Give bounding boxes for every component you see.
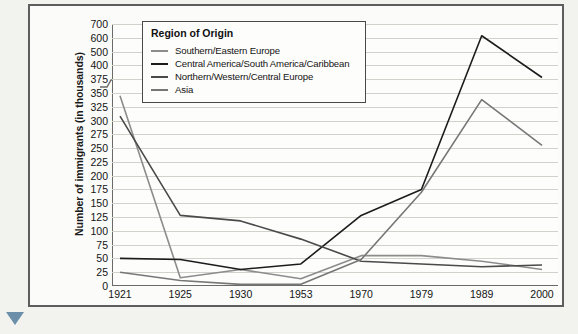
x-tick-1925: 1925 (169, 288, 192, 300)
y-tick-200: 200 (90, 170, 108, 182)
legend-swatch-icon (151, 50, 168, 52)
legend-title: Region of Origin (151, 27, 357, 39)
x-tick-1970: 1970 (349, 288, 372, 300)
x-tick-1989: 1989 (470, 288, 493, 300)
legend-items: Southern/Eastern EuropeCentral America/S… (151, 44, 357, 96)
legend-item: Southern/Eastern Europe (151, 44, 357, 57)
line-southern-eastern-europe (120, 96, 542, 279)
x-tick-1979: 1979 (410, 288, 433, 300)
y-tick-225: 225 (90, 156, 108, 168)
corner-arrow-marker (6, 312, 24, 325)
legend-label: Southern/Eastern Europe (175, 45, 280, 56)
y-tick-300: 300 (90, 115, 108, 127)
y-tick-150: 150 (90, 197, 108, 209)
x-tick-1921: 1921 (108, 288, 131, 300)
legend-label: Asia (175, 84, 193, 95)
legend-item: Asia (151, 83, 357, 96)
y-tick-175: 175 (90, 183, 108, 195)
y-tick-0: 0 (102, 280, 108, 292)
legend-label: Central America/South America/Caribbean (175, 58, 349, 69)
y-tick-600: 600 (90, 32, 108, 44)
legend-swatch-icon (151, 89, 168, 91)
line-northern-western-central-europe (120, 116, 542, 267)
y-tick-250: 250 (90, 142, 108, 154)
y-tick-25: 25 (96, 266, 108, 278)
y-axis-tick-labels: 7006005004003753503253002752502252001751… (64, 24, 108, 286)
y-tick-325: 325 (90, 101, 108, 113)
y-tick-400: 400 (90, 59, 108, 71)
legend-item: Northern/Western/Central Europe (151, 70, 357, 83)
legend-swatch-icon (151, 63, 168, 65)
legend: Region of Origin Southern/Eastern Europe… (142, 21, 366, 103)
y-tick-500: 500 (90, 46, 108, 58)
legend-swatch-icon (151, 76, 168, 78)
chart-card: Number of immigrants (in thousands) 7006… (28, 4, 564, 307)
y-tick-275: 275 (90, 128, 108, 140)
y-tick-75: 75 (96, 239, 108, 251)
y-tick-100: 100 (90, 225, 108, 237)
x-tick-1953: 1953 (289, 288, 312, 300)
y-tick-50: 50 (96, 252, 108, 264)
line-asia (120, 100, 542, 285)
legend-label: Northern/Western/Central Europe (175, 71, 313, 82)
y-tick-125: 125 (90, 211, 108, 223)
chart-screenshot: Number of immigrants (in thousands) 7006… (0, 0, 578, 334)
y-tick-700: 700 (90, 18, 108, 30)
x-tick-1930: 1930 (229, 288, 252, 300)
legend-item: Central America/South America/Caribbean (151, 57, 357, 70)
x-tick-2000: 2000 (530, 288, 553, 300)
